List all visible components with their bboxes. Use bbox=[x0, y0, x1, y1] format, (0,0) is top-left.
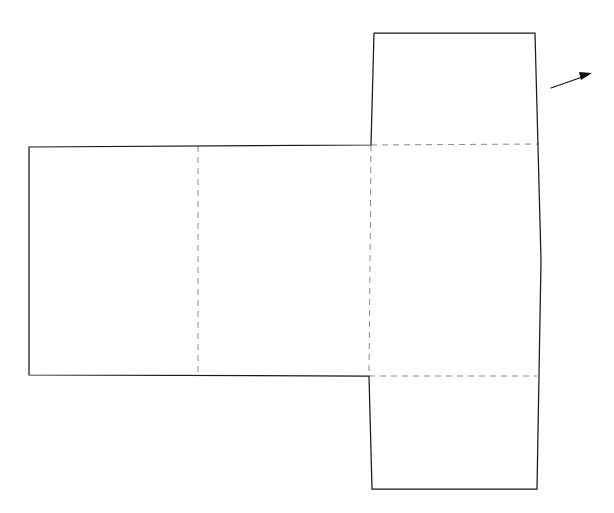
pointer-arrow-head bbox=[579, 72, 592, 80]
left-panel-face bbox=[29, 146, 198, 375]
box-net-diagram bbox=[0, 0, 614, 513]
middle-panel-face bbox=[198, 145, 371, 376]
right-panel-face bbox=[369, 144, 539, 376]
panel-faces-group bbox=[29, 33, 539, 489]
bottom-flap-panel-face bbox=[369, 376, 537, 489]
annotation-arrow-group bbox=[551, 72, 592, 88]
net-svg-canvas bbox=[0, 0, 614, 513]
top-flap-panel-face bbox=[371, 33, 539, 145]
